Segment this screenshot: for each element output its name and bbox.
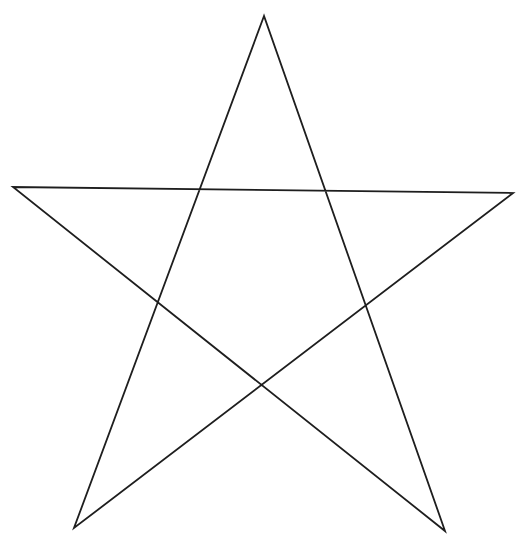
pentagram-star-icon — [0, 0, 530, 549]
pentagram-outline — [13, 16, 513, 531]
drawing-canvas: Five-pointed star line drawing — [0, 0, 530, 549]
